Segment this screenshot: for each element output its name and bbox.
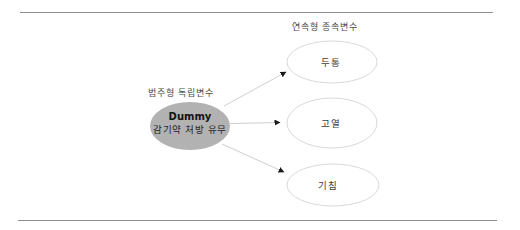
dependent-group-label: 연속형 종속변수 — [292, 22, 359, 32]
arrow-to-headache — [224, 72, 286, 106]
independent-group-label: 범주형 독립변수 — [148, 88, 215, 98]
dependent-node-headache-label: 두통 — [321, 57, 341, 68]
dependent-node-fever-label: 고열 — [321, 118, 341, 129]
independent-node-subtitle: 감기약 처방 유무 — [153, 124, 227, 135]
dependent-node-cough-label: 기침 — [318, 180, 338, 191]
arrow-to-cough — [222, 144, 284, 172]
arrow-to-fever — [230, 123, 280, 124]
diagram-canvas: 범주형 독립변수 Dummy 감기약 처방 유무 연속형 종속변수 두통 고열 … — [0, 0, 520, 230]
independent-node-title: Dummy — [169, 111, 212, 122]
path-diagram: 범주형 독립변수 Dummy 감기약 처방 유무 연속형 종속변수 두통 고열 … — [0, 0, 520, 230]
